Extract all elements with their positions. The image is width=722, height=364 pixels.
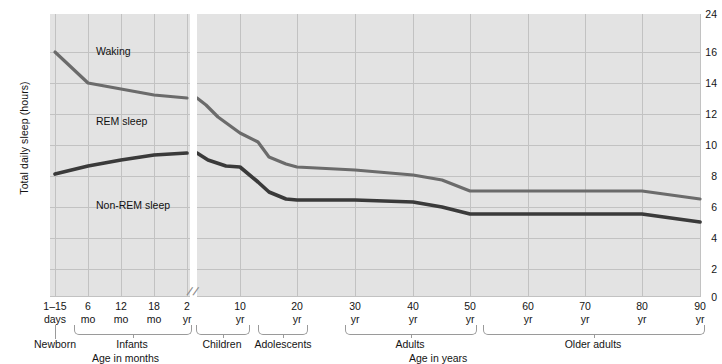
x-tick-60-yr: 60 yr <box>498 300 558 325</box>
band-label-waking: Waking <box>96 45 131 57</box>
x-tick-label-top: 20 <box>267 300 327 313</box>
x-tick-label-top: 60 <box>498 300 558 313</box>
x-tick-label-bottom: yr <box>670 313 722 326</box>
x-tick-label-bottom: yr <box>440 313 500 326</box>
group-label-adolescents: Adolescents <box>238 338 328 350</box>
group-label-newborn: Newborn <box>18 338 92 350</box>
x-tick-label-top: 50 <box>440 300 500 313</box>
x-tick-label-bottom: yr <box>157 313 217 326</box>
group-label-adults: Adults <box>373 338 447 350</box>
x-tick-label-top: 2 <box>157 300 217 313</box>
band-label-non-rem-sleep: Non-REM sleep <box>96 199 170 211</box>
series-line-total-sleep <box>197 98 700 199</box>
group-bracket-infants <box>74 325 192 335</box>
x-tick-80-yr: 80 yr <box>612 300 672 325</box>
group-label-infants: Infants <box>95 338 169 350</box>
plot-area: / / Waking REM sleep Non-REM sleep <box>50 14 700 297</box>
x-tick-label-bottom: yr <box>325 313 385 326</box>
x-tick-label-bottom: yr <box>267 313 327 326</box>
x-tick-70-yr: 70 yr <box>555 300 615 325</box>
group-bracket-older-adults <box>483 325 705 335</box>
x-axis-caption-months: Age in months <box>92 352 159 364</box>
x-tick-2-yr: 2 yr <box>157 300 217 325</box>
x-tick-label-bottom: yr <box>612 313 672 326</box>
group-bracket-children <box>196 325 250 335</box>
x-tick-90-yr: 90 yr <box>670 300 722 325</box>
series-line-nonrem <box>55 153 187 174</box>
y-axis-title: Total daily sleep (hours) <box>18 38 30 238</box>
x-tick-label-bottom: yr <box>498 313 558 326</box>
x-tick-label-bottom: yr <box>555 313 615 326</box>
group-label-older-adults: Older adults <box>548 338 638 350</box>
group-bracket-adults <box>345 325 477 335</box>
x-tick-40-yr: 40 yr <box>383 300 443 325</box>
x-tick-label-top: 10 <box>210 300 270 313</box>
x-axis-caption-years: Age in years <box>409 352 467 364</box>
group-stub-newborn <box>55 325 56 339</box>
gridline-v <box>700 14 701 297</box>
x-tick-50-yr: 50 yr <box>440 300 500 325</box>
x-tick-label-top: 40 <box>383 300 443 313</box>
series-lines <box>50 14 700 297</box>
x-tick-label-top: 80 <box>612 300 672 313</box>
x-tick-label-bottom: yr <box>383 313 443 326</box>
x-tick-label-top: 90 <box>670 300 722 313</box>
x-tick-label-bottom: yr <box>210 313 270 326</box>
series-line-total-sleep <box>55 52 187 98</box>
band-label-rem-sleep: REM sleep <box>96 115 147 127</box>
x-tick-30-yr: 30 yr <box>325 300 385 325</box>
x-tick-10-yr: 10 yr <box>210 300 270 325</box>
group-bracket-adolescents <box>258 325 308 335</box>
series-line-nonrem <box>197 153 700 222</box>
x-tick-label-top: 30 <box>325 300 385 313</box>
x-tick-label-top: 70 <box>555 300 615 313</box>
axis-break-gap <box>190 14 197 297</box>
x-tick-20-yr: 20 yr <box>267 300 327 325</box>
